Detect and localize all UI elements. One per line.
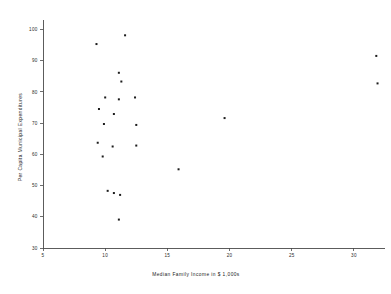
data-point xyxy=(112,145,114,147)
data-point xyxy=(119,194,121,196)
y-tick-label: 40 xyxy=(32,214,38,219)
x-axis-ticks: 51015202530 xyxy=(42,248,357,258)
data-point xyxy=(113,113,115,115)
data-point xyxy=(118,98,120,100)
data-point xyxy=(95,43,97,45)
data-point xyxy=(224,117,226,119)
data-point xyxy=(120,81,122,83)
y-tick-label: 50 xyxy=(32,183,38,188)
x-tick-label: 30 xyxy=(351,253,357,258)
data-point xyxy=(375,55,377,57)
data-point xyxy=(107,190,109,192)
data-point xyxy=(104,96,106,98)
y-tick-label: 30 xyxy=(32,246,38,251)
data-point xyxy=(103,123,105,125)
y-tick-label: 80 xyxy=(32,90,38,95)
y-axis-group: 30405060708090100 xyxy=(29,20,43,251)
x-tick-label: 20 xyxy=(227,253,233,258)
data-point xyxy=(118,219,120,221)
scatter-plot-figure: 30405060708090100 51015202530 Median Fam… xyxy=(0,0,391,294)
x-tick-label: 15 xyxy=(165,253,171,258)
data-point xyxy=(124,34,126,36)
x-tick-label: 5 xyxy=(42,253,45,258)
data-point-series xyxy=(95,34,378,220)
data-point xyxy=(102,155,104,157)
data-point xyxy=(135,124,137,126)
data-point xyxy=(377,82,379,84)
data-point xyxy=(134,96,136,98)
y-axis-title: Per Capita Municipal Expenditures xyxy=(18,93,23,182)
y-tick-label: 60 xyxy=(32,152,38,157)
plot-canvas: 30405060708090100 51015202530 Median Fam… xyxy=(0,0,391,294)
y-tick-label: 70 xyxy=(32,121,38,126)
data-point xyxy=(98,108,100,110)
data-point xyxy=(113,192,115,194)
data-point xyxy=(178,168,180,170)
data-point xyxy=(97,142,99,144)
x-axis-title: Median Family Income in $ 1,000s xyxy=(152,272,240,277)
y-tick-label: 90 xyxy=(32,58,38,63)
data-point xyxy=(118,72,120,74)
x-axis-group: 51015202530 xyxy=(42,248,385,258)
x-tick-label: 25 xyxy=(289,253,295,258)
x-tick-label: 10 xyxy=(102,253,108,258)
y-tick-label: 100 xyxy=(29,27,38,32)
data-point xyxy=(135,145,137,147)
y-axis-ticks: 30405060708090100 xyxy=(29,27,43,251)
